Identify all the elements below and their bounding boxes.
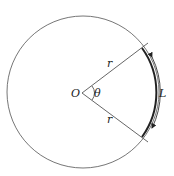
radius-upper-label: r [107,57,113,70]
radius-upper [82,43,148,93]
center-label: O [71,87,80,100]
radius-lower-label: r [107,113,113,126]
angle-label: θ [94,87,101,100]
arc-length-label: L [158,87,166,100]
circle-arc-diagram: O θ r r L [0,0,174,176]
radius-lower [82,93,148,142]
